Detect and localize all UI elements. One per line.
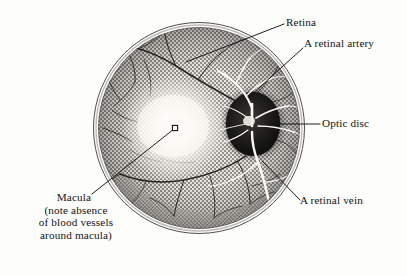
label-macula-note-line-2: of blood vessels xyxy=(14,216,138,229)
label-retinal-artery: A retinal artery xyxy=(304,37,374,50)
label-retina: Retina xyxy=(286,16,316,29)
label-macula-group: Macula (note absence of blood vessels ar… xyxy=(14,191,138,241)
label-optic-disc: Optic disc xyxy=(322,117,369,130)
label-macula-note-line-3: around macula) xyxy=(14,229,138,242)
optic-cup-highlight xyxy=(243,116,255,126)
figure-canvas: Retina A retinal artery Optic disc A ret… xyxy=(0,0,407,276)
label-macula-note-line-1: (note absence xyxy=(14,204,138,217)
label-retinal-vein: A retinal vein xyxy=(300,194,363,207)
label-macula-title: Macula xyxy=(14,191,138,204)
fovea-marker xyxy=(172,125,177,130)
